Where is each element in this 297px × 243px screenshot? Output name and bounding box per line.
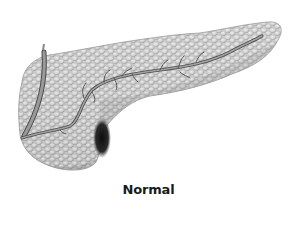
figure-caption: Normal: [0, 182, 297, 197]
pancreas-figure: Normal: [0, 0, 297, 243]
pancreas-body: [0, 0, 297, 180]
shadow-region: [93, 118, 111, 158]
pancreas-illustration: [0, 0, 297, 180]
